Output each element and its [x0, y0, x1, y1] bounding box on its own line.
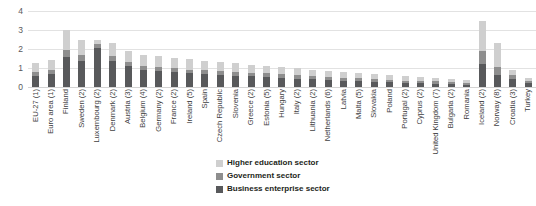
legend-item[interactable]: Business enterprise sector: [216, 183, 330, 195]
stacked-bar[interactable]: [125, 51, 132, 87]
x-axis-tick-label: Greece (2): [247, 89, 255, 125]
bar-slot: [105, 11, 120, 87]
bar-segment-business-enterprise: [78, 61, 85, 87]
x-label-slot: Greece (2): [243, 89, 258, 155]
bar-segment-business-enterprise: [248, 76, 255, 87]
x-label-slot: Hungary: [274, 89, 289, 155]
stacked-bar[interactable]: [263, 66, 270, 87]
x-axis-tick-label: Romania: [463, 89, 471, 119]
x-label-slot: Malta (5): [351, 89, 366, 155]
stacked-bar[interactable]: [402, 76, 409, 87]
stacked-bar[interactable]: [525, 78, 532, 87]
stacked-bar[interactable]: [217, 62, 224, 87]
bar-segment-higher-education: [479, 21, 486, 51]
bar-segment-higher-education: [201, 61, 208, 70]
bar-slot: [28, 11, 43, 87]
y-axis-tick-label: 3: [18, 26, 23, 35]
legend-color-swatch: [216, 160, 223, 167]
bar-segment-business-enterprise: [432, 84, 439, 87]
stacked-bar[interactable]: [232, 63, 239, 87]
bar-segment-business-enterprise: [155, 71, 162, 87]
bar-slot: [213, 11, 228, 87]
x-axis-tick-label: Germany (2): [155, 89, 163, 132]
stacked-bar[interactable]: [78, 40, 85, 87]
bar-segment-higher-education: [32, 63, 39, 72]
x-axis-tick-label: Norway (8): [494, 89, 502, 126]
stacked-bar[interactable]: [463, 80, 470, 87]
stacked-bar[interactable]: [278, 67, 285, 87]
x-axis-tick-label: Finland: [63, 89, 71, 114]
bar-slot: [351, 11, 366, 87]
x-label-slot: Turkey: [521, 89, 536, 155]
x-label-slot: Slovenia: [228, 89, 243, 155]
x-label-slot: Luxembourg (2): [90, 89, 105, 155]
bar-series-group: [28, 11, 536, 87]
stacked-bar[interactable]: [340, 72, 347, 87]
bar-segment-business-enterprise: [109, 61, 116, 87]
bar-slot: [459, 11, 474, 87]
legend-item[interactable]: Higher education sector: [216, 157, 330, 169]
bar-slot: [136, 11, 151, 87]
bar-segment-higher-education: [48, 60, 55, 70]
x-axis-tick-label: Slovakia: [370, 89, 378, 118]
legend-color-swatch: [216, 173, 223, 180]
stacked-bar[interactable]: [48, 60, 55, 87]
x-axis-tick-label: Bulgaria (2): [447, 89, 455, 128]
x-axis-tick-label: Poland: [386, 89, 394, 113]
x-label-slot: Bulgaria (2): [444, 89, 459, 155]
bar-slot: [228, 11, 243, 87]
stacked-bar[interactable]: [186, 59, 193, 87]
x-label-slot: Cyprus (2): [413, 89, 428, 155]
stacked-bar[interactable]: [248, 65, 255, 87]
bar-segment-higher-education: [263, 66, 270, 74]
bar-slot: [197, 11, 212, 87]
x-axis-tick-label: Netherlands (6): [324, 89, 332, 141]
legend-item-label: Higher education sector: [227, 159, 319, 167]
bar-segment-business-enterprise: [402, 83, 409, 87]
x-axis-tick-label: Latvia: [340, 89, 348, 109]
stacked-bar[interactable]: [155, 56, 162, 87]
bar-segment-business-enterprise: [463, 85, 470, 87]
legend-item[interactable]: Government sector: [216, 170, 330, 182]
stacked-bar[interactable]: [325, 71, 332, 87]
stacked-bar[interactable]: [294, 68, 301, 87]
x-axis-category-labels: EU-27 (1)Euro area (1)FinlandSweden (2)L…: [28, 89, 536, 155]
x-label-slot: United Kingdom (7): [428, 89, 443, 155]
x-axis-tick-label: Belgium (4): [140, 89, 148, 128]
bar-segment-business-enterprise: [371, 82, 378, 87]
bar-segment-higher-education: [155, 56, 162, 67]
x-axis-tick-label: Lithuania (2): [309, 89, 317, 131]
bar-slot: [336, 11, 351, 87]
bar-segment-business-enterprise: [263, 77, 270, 87]
stacked-bar[interactable]: [32, 63, 39, 87]
stacked-bar[interactable]: [109, 43, 116, 87]
stacked-bar[interactable]: [509, 70, 516, 87]
stacked-bar[interactable]: [140, 55, 147, 87]
stacked-bar[interactable]: [417, 77, 424, 87]
stacked-bar[interactable]: [94, 40, 101, 87]
stacked-bar[interactable]: [371, 74, 378, 87]
bar-segment-business-enterprise: [140, 70, 147, 87]
bar-slot: [259, 11, 274, 87]
stacked-bar[interactable]: [494, 43, 501, 87]
stacked-bar[interactable]: [355, 73, 362, 87]
bar-segment-business-enterprise: [63, 57, 70, 87]
bar-segment-government: [479, 51, 486, 64]
x-axis-tick-label: Ireland (5): [186, 89, 194, 124]
stacked-bar[interactable]: [448, 79, 455, 87]
bar-segment-business-enterprise: [386, 82, 393, 87]
x-label-slot: Denmark (2): [105, 89, 120, 155]
stacked-bar[interactable]: [201, 61, 208, 87]
stacked-bar-chart: 01234 EU-27 (1)Euro area (1)FinlandSwede…: [0, 0, 536, 206]
x-label-slot: Italy (2): [290, 89, 305, 155]
x-label-slot: Slovakia: [367, 89, 382, 155]
stacked-bar[interactable]: [309, 70, 316, 87]
bar-segment-business-enterprise: [479, 64, 486, 87]
stacked-bar[interactable]: [479, 21, 486, 87]
stacked-bar[interactable]: [432, 78, 439, 87]
stacked-bar[interactable]: [63, 30, 70, 87]
bar-segment-higher-education: [494, 43, 501, 67]
bar-segment-government: [63, 50, 70, 57]
stacked-bar[interactable]: [171, 58, 178, 87]
stacked-bar[interactable]: [386, 75, 393, 87]
